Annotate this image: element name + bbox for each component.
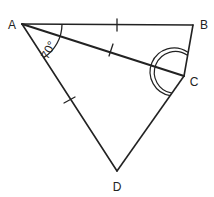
vertex-label-d: D [113,180,122,194]
segment-cd [117,76,184,171]
angle-label-70: 70° [38,39,59,62]
geometry-diagram: 70° A B C D [0,0,214,197]
vertex-label-b: B [200,18,208,32]
tick-mark-ac [109,44,113,56]
segment-ab [22,24,193,25]
vertex-label-a: A [8,18,16,32]
segment-da [22,24,117,171]
vertex-label-c: C [190,75,199,89]
